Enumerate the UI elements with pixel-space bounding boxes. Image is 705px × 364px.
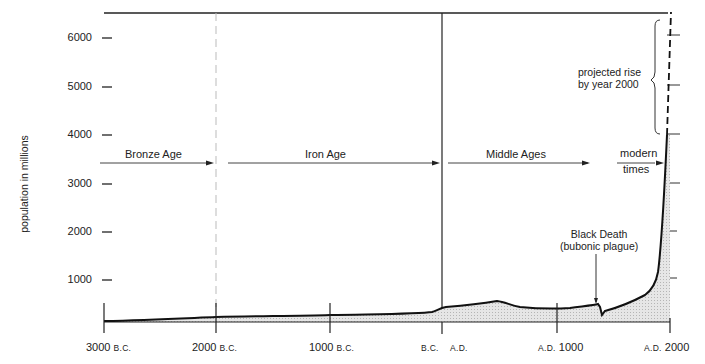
projected-line-1: projected rise bbox=[578, 66, 641, 78]
era-iron-age: Iron Age bbox=[305, 148, 346, 160]
era-bronze-age: Bronze Age bbox=[125, 148, 182, 160]
x-tick-era: A.D. bbox=[538, 343, 556, 353]
projected-brace bbox=[651, 20, 660, 134]
x-tick-num: 2000 bbox=[192, 341, 216, 353]
black-death-label: Black Death (bubonic plague) bbox=[560, 228, 638, 252]
projected-rise-line bbox=[667, 12, 671, 135]
projected-rise-label: projected rise by year 2000 bbox=[578, 66, 641, 90]
x-tick-era: B.C. bbox=[114, 343, 132, 353]
x-tick-bc: B.C. bbox=[421, 343, 439, 353]
era-times: times bbox=[623, 163, 649, 175]
y-tick-6000: 6000 bbox=[42, 31, 92, 43]
x-tick-ad1000: A.D. 1000 bbox=[538, 341, 583, 353]
y-tick-2000: 2000 bbox=[42, 225, 92, 237]
y-axis-title: population in millions bbox=[18, 135, 30, 232]
era-middle-ages: Middle Ages bbox=[486, 148, 546, 160]
x-tick-1000bc: 1000 B.C. bbox=[309, 341, 354, 353]
x-tick-num: 2000 bbox=[665, 341, 689, 353]
x-tick-2000bc: 2000 B.C. bbox=[192, 341, 237, 353]
projected-line-2: by year 2000 bbox=[578, 78, 641, 90]
y-tick-3000: 3000 bbox=[42, 177, 92, 189]
population-chart bbox=[0, 0, 705, 364]
y-tick-5000: 5000 bbox=[42, 80, 92, 92]
y-tick-1000: 1000 bbox=[42, 273, 92, 285]
x-tick-era: A.D. bbox=[644, 343, 662, 353]
era-modern: modern bbox=[620, 147, 657, 159]
x-tick-num: 1000 bbox=[309, 341, 333, 353]
y-ticks bbox=[102, 38, 112, 280]
black-death-subtitle: (bubonic plague) bbox=[560, 240, 638, 252]
x-tick-3000bc: 3000 B.C. bbox=[86, 341, 131, 353]
x-tick-ad: A.D. bbox=[450, 343, 468, 353]
x-tick-era: B.C. bbox=[337, 343, 355, 353]
x-tick-era: B.C. bbox=[220, 343, 238, 353]
black-death-arrowhead bbox=[594, 298, 598, 304]
x-tick-num: 3000 bbox=[86, 341, 110, 353]
x-tick-num: 1000 bbox=[559, 341, 583, 353]
x-tick-ad2000: A.D. 2000 bbox=[644, 341, 689, 353]
black-death-title: Black Death bbox=[560, 228, 638, 240]
y-tick-4000: 4000 bbox=[42, 128, 92, 140]
